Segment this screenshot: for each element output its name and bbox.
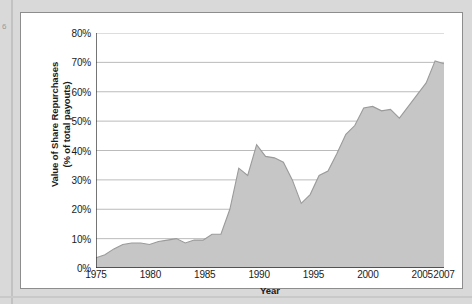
y-tick-label: 60% (57, 86, 91, 97)
y-tick-label: 80% (57, 28, 91, 39)
x-tick-label: 1980 (140, 269, 161, 280)
x-tick-label: 1990 (248, 269, 269, 280)
edge-artifact-mark: 6 (2, 22, 10, 32)
x-axis-tick-labels: 19751980198519901995200020052007 (96, 269, 444, 285)
area-chart-svg (96, 33, 444, 268)
x-tick-label: 2005 (412, 269, 433, 280)
y-tick-label: 30% (57, 174, 91, 185)
x-tick-label: 2007 (433, 269, 454, 280)
plot-area (96, 33, 444, 268)
x-tick-label: 2000 (357, 269, 378, 280)
bottom-margin-rule (0, 296, 472, 298)
y-tick-label: 50% (57, 116, 91, 127)
y-axis-tick-labels: 0%10%20%30%40%50%60%70%80% (51, 33, 91, 268)
chart-figure-card: Value of Share Repurchases (% of total p… (20, 12, 463, 289)
y-tick-label: 20% (57, 204, 91, 215)
x-tick-label: 1995 (303, 269, 324, 280)
x-tick-label: 1985 (194, 269, 215, 280)
x-axis-title: Year (96, 285, 444, 296)
left-margin-rule (11, 0, 13, 304)
figure-page: 6 Value of Share Repurchases (% of total… (0, 0, 472, 304)
y-tick-label: 10% (57, 233, 91, 244)
y-tick-label: 70% (57, 57, 91, 68)
x-tick-label: 1975 (85, 269, 106, 280)
y-tick-label: 40% (57, 145, 91, 156)
